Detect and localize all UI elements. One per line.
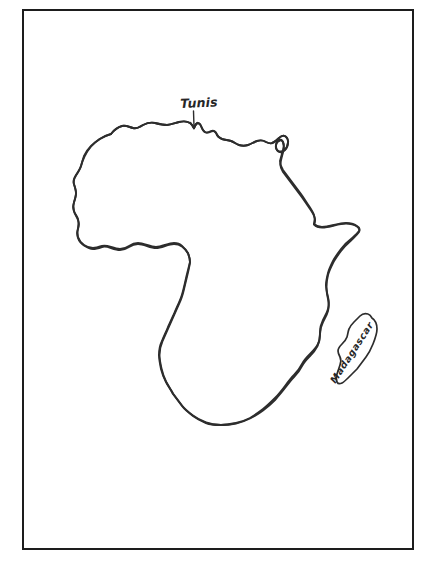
map-border-frame <box>22 9 414 550</box>
label-tunis: Tunis <box>180 94 218 111</box>
page-canvas: Tunis Madagascar <box>0 0 433 566</box>
